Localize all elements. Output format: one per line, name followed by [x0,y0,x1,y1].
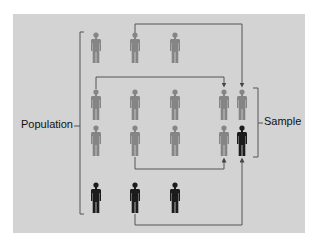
person-icon [170,125,180,156]
sample-bracket [253,88,263,157]
person-icon [219,125,229,156]
person-icon [170,89,180,120]
population-row-1 [91,32,180,63]
person-icon [130,125,140,156]
person-icon [91,32,101,63]
connector-row2-to-sample [96,77,224,89]
population-bracket [74,32,84,214]
population-row-3 [91,125,180,156]
person-icon [91,89,101,120]
population-row-2 [91,89,180,120]
connector-row3-to-sample [135,157,224,169]
person-icon [170,182,180,213]
person-icon [130,32,140,63]
person-icon [237,89,247,120]
connector-row4-to-sample [135,160,242,225]
population-row-4 [91,182,180,213]
person-icon [170,32,180,63]
person-icon [91,182,101,213]
person-icon [130,89,140,120]
person-icon [130,182,140,213]
connector-row1-to-sample [135,24,242,85]
person-icon [237,125,247,156]
population-label: Population [21,118,73,130]
sample-label: Sample [264,115,301,127]
person-icon [91,125,101,156]
person-icon [219,89,229,120]
sample-group [219,89,247,156]
